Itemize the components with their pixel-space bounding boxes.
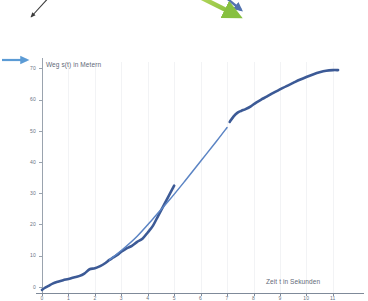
data-series-layer [0, 0, 368, 301]
chart-screenshot: 010203040506070 01234567891011 Weg s(t) … [0, 0, 368, 301]
data-series-line-1 [109, 128, 227, 260]
data-series-line-2 [230, 70, 338, 122]
data-series-line-0 [42, 186, 174, 290]
